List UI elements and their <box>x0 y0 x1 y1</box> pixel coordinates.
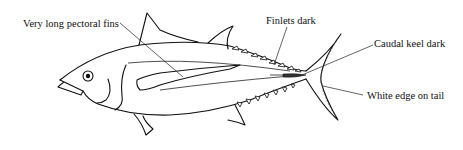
caudal-keel <box>283 74 306 78</box>
label-finlets: Finlets dark <box>266 15 317 26</box>
leader-finlets <box>274 27 287 65</box>
leader-keel <box>302 45 373 75</box>
pupil <box>86 74 90 78</box>
lateral-line-upper <box>128 61 290 71</box>
label-tail-edge: White edge on tail <box>367 90 444 101</box>
first-dorsal-fin <box>139 13 198 45</box>
anal-fin <box>228 105 245 125</box>
lower-finlets <box>237 84 295 107</box>
tuna-diagram: Very long pectoral fins Finlets dark Cau… <box>0 0 463 150</box>
label-caudal-keel: Caudal keel dark <box>374 38 446 49</box>
caudal-fin <box>306 34 341 120</box>
lateral-line-lower <box>160 76 290 90</box>
label-pectoral-fins: Very long pectoral fins <box>23 18 119 29</box>
leader-pectoral <box>120 23 183 77</box>
mouth <box>58 80 83 95</box>
leader-tail <box>323 86 363 95</box>
operculum <box>97 79 110 103</box>
pelvic-fin <box>134 114 153 135</box>
gill-line <box>115 65 126 110</box>
